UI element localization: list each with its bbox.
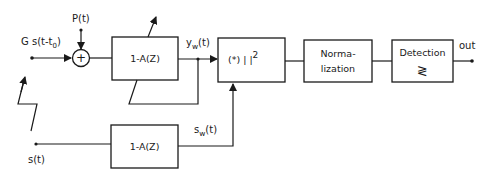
- normalization-label-line2: lization: [321, 63, 355, 74]
- whitening-filter-top-block: 1-A(Z): [112, 37, 178, 80]
- normalization-label-line1: Norma-: [320, 48, 355, 59]
- threshold-compare-icon: ≷: [417, 63, 428, 78]
- sw-path: [178, 84, 233, 146]
- detection-label: Detection: [399, 47, 445, 58]
- signal-processing-diagram: G s(t-t0) P(t) + 1-A(Z) yw(t) (*) | |2 N…: [0, 0, 488, 179]
- received-signal-input: G s(t-t0): [21, 36, 71, 60]
- output-node-dot: [470, 59, 474, 63]
- sw-label: sw(t): [194, 124, 217, 138]
- normalization-block: Norma- lization: [304, 40, 372, 82]
- whitening-filter-bottom-block: 1-A(Z): [111, 125, 178, 168]
- noise-label: P(t): [72, 13, 90, 24]
- zigzag-path: [18, 80, 37, 131]
- output-label: out: [459, 40, 475, 51]
- summing-junction: +: [73, 50, 90, 67]
- received-signal-label: G s(t-t0): [21, 36, 61, 50]
- normalization-box: [304, 40, 372, 82]
- correlator-block: (*) | |2: [218, 38, 285, 82]
- plus-icon: +: [76, 51, 86, 65]
- reference-signal-input: s(t): [28, 142, 111, 165]
- whitening-filter-bottom-label: 1-A(Z): [130, 141, 160, 152]
- yw-label: yw(t): [186, 37, 210, 51]
- noise-input: P(t): [72, 13, 90, 49]
- zigzag-arrow-icon: [21, 77, 25, 92]
- reference-signal-label: s(t): [28, 154, 45, 165]
- adaptation-arrow-icon: [148, 17, 156, 37]
- detection-block: Detection ≷: [392, 40, 453, 82]
- whitening-filter-top-label: 1-A(Z): [130, 53, 160, 64]
